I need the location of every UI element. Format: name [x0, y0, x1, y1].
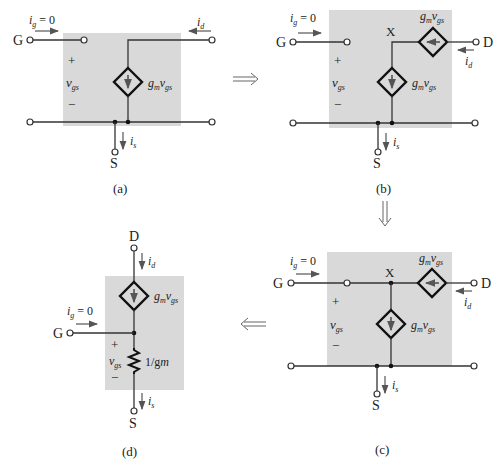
gate-inner-terminal [344, 39, 350, 45]
arrow-left-icon [241, 318, 266, 330]
source-terminal [374, 391, 380, 397]
id-label: id [197, 15, 205, 31]
arrow-down-icon [379, 201, 391, 226]
gate-inner-terminal [344, 280, 350, 286]
minus-sign: − [332, 338, 339, 353]
id-label: id [465, 54, 473, 70]
drain-terminal [131, 245, 137, 251]
source-terminal [112, 149, 118, 155]
drain-terminal [209, 37, 215, 43]
is-label: is [392, 378, 398, 394]
gate-inner-terminal [81, 37, 87, 43]
minus-sign: − [68, 97, 75, 112]
caption-c: (c) [375, 442, 389, 457]
is-label: is [130, 134, 136, 150]
plus-sign: + [334, 53, 341, 68]
ig-label: ig = 0 [67, 304, 93, 320]
gate-label: G [276, 35, 286, 50]
plus-sign: + [68, 53, 75, 68]
mosfet-t-model-derivation: G ig = 0 id gmvgs + vgs − S is (a) [0, 0, 503, 468]
is-label: is [148, 394, 154, 410]
plus-sign: + [332, 294, 339, 309]
gate-terminal [290, 39, 296, 45]
id-label: id [464, 295, 472, 311]
resistor-label: 1/gm [145, 355, 169, 369]
gate-terminal [288, 280, 294, 286]
minus-sign: − [334, 97, 341, 112]
ig-label: ig = 0 [29, 13, 55, 29]
gate-label: G [273, 276, 283, 291]
source-terminal [131, 408, 137, 414]
id-label: id [148, 254, 156, 270]
is-label: is [393, 135, 399, 151]
caption-a: (a) [113, 181, 127, 196]
ig-label: ig = 0 [290, 254, 316, 270]
caption-d: (d) [122, 444, 137, 459]
gate-terminal [67, 330, 73, 336]
panel-d: D id gmvgs G ig = 0 1/gm + vgs − S is (d… [53, 229, 184, 459]
gate-label: G [53, 326, 63, 341]
source-label: S [110, 156, 118, 171]
caption-b: (b) [376, 181, 391, 196]
panel-a: G ig = 0 id gmvgs + vgs − S is (a) [13, 13, 215, 196]
panel-b: G ig = 0 X D gmvgs id gmvgs + vgs − S is… [276, 9, 493, 196]
gate-label: G [13, 33, 23, 48]
drain-label: D [129, 229, 139, 244]
plus-sign: + [111, 337, 118, 352]
drain-label: D [481, 276, 491, 291]
source-label: S [129, 416, 137, 431]
drain-terminal [473, 39, 479, 45]
source-label: S [372, 398, 380, 413]
source-label: S [373, 156, 381, 171]
node-x-label: X [385, 265, 395, 280]
gate-terminal [27, 37, 33, 43]
arrow-right-icon [233, 73, 258, 85]
minus-sign: − [111, 370, 118, 385]
drain-terminal [471, 280, 477, 286]
source-terminal [375, 149, 381, 155]
node-x-label: X [386, 24, 396, 39]
panel-c: G ig = 0 X D gmvgs id gmvgs + vgs − S is… [273, 251, 491, 457]
ig-label: ig = 0 [290, 11, 316, 27]
drain-label: D [483, 35, 493, 50]
